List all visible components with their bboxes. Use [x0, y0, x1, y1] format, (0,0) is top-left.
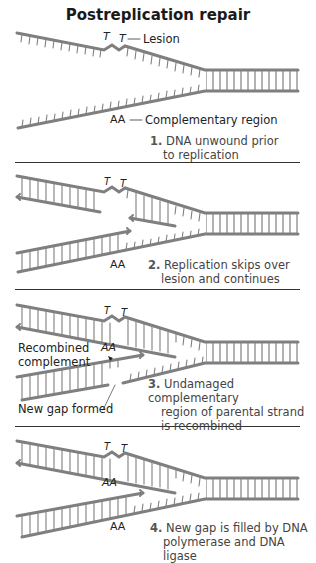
- new-gap-label: New gap formed: [18, 402, 113, 416]
- lesion-base-t2: T: [119, 32, 126, 45]
- lesion-base-t1: T: [104, 441, 110, 452]
- divider: [15, 289, 300, 290]
- step-3-caption: 3. Undamaged complementary region of par…: [148, 377, 316, 433]
- complementary-region-label: Complementary region: [145, 113, 278, 127]
- step-4-caption: 4. New gap is filled by DNA polymerase a…: [150, 521, 316, 563]
- lesion-base-t1: T: [104, 305, 110, 316]
- complement-bases: AA: [110, 113, 125, 126]
- complement-bases: AA: [110, 258, 125, 271]
- lesion-base-t2: T: [120, 178, 126, 189]
- lesion-base-t2: T: [121, 307, 127, 318]
- recombined-complement-label: Recombined complement: [18, 341, 90, 369]
- divider: [15, 426, 300, 427]
- lesion-base-t2: T: [121, 443, 127, 454]
- step-2-caption: 2. Replication skips over lesion and con…: [148, 258, 290, 286]
- complement-bases: AA: [101, 341, 116, 354]
- lesion-base-t1: T: [104, 176, 110, 187]
- lesion-base-t1: T: [103, 30, 110, 43]
- step-1-caption: 1. DNA unwound prior to replication: [150, 134, 279, 162]
- complement-bases-upper: AA: [102, 476, 117, 489]
- divider: [15, 162, 300, 163]
- complement-bases-lower: AA: [110, 520, 125, 533]
- lesion-label: Lesion: [143, 32, 180, 46]
